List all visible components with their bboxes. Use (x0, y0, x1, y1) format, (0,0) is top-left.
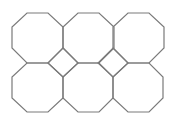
tiling-svg (0, 0, 175, 120)
shapes-group (12, 13, 164, 112)
square-2 (98, 48, 128, 77)
tiling-diagram (0, 0, 175, 120)
square-1 (48, 48, 78, 77)
